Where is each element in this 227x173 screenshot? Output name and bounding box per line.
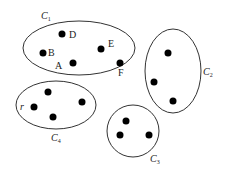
point-d-label: D: [69, 29, 76, 40]
point: [45, 89, 52, 96]
point-f: [117, 60, 124, 67]
cluster-c1: C1 D B A E F: [23, 10, 135, 78]
point: [79, 99, 86, 106]
cluster-c2-label: C2: [203, 66, 213, 78]
cluster-c4-boundary: [16, 81, 96, 129]
point: [151, 79, 158, 86]
cluster-c2: C2: [145, 29, 213, 113]
cluster-c3-boundary: [107, 105, 159, 157]
point: [50, 114, 57, 121]
point-e: [98, 46, 105, 53]
point-a-label: A: [55, 60, 63, 71]
point-r-label: r: [20, 101, 24, 112]
point-b: [40, 50, 47, 57]
point-f-label: F: [118, 67, 124, 78]
point: [146, 132, 153, 139]
cluster-c4: C4 r: [16, 81, 96, 144]
cluster-c1-label: C1: [41, 10, 51, 22]
cluster-diagram: C1 D B A E F C2 C3 C4 r: [0, 0, 227, 173]
cluster-c4-label: C4: [51, 132, 61, 144]
point: [123, 118, 130, 125]
cluster-c3-label: C3: [150, 153, 160, 165]
point-d: [59, 31, 66, 38]
point-e-label: E: [108, 38, 114, 49]
point: [170, 98, 177, 105]
point-r: [31, 104, 38, 111]
point: [117, 132, 124, 139]
cluster-c3: C3: [107, 105, 160, 165]
point-a: [70, 60, 77, 67]
point-b-label: B: [48, 47, 55, 58]
point: [165, 50, 172, 57]
